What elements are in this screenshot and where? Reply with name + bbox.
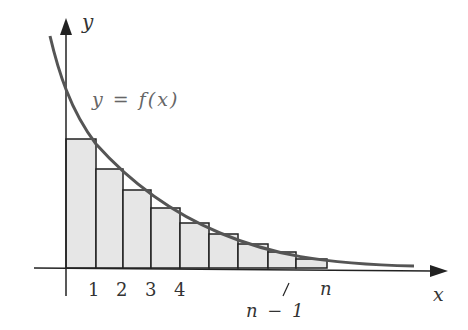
tick-n-minus-1: n − 1 xyxy=(246,300,306,321)
n-minus-1-pointer xyxy=(283,283,289,296)
tick-2: 2 xyxy=(116,279,127,300)
rect-4 xyxy=(151,208,180,268)
riemann-sum-diagram xyxy=(0,0,468,330)
y-axis-arrow-icon xyxy=(60,18,72,35)
rect-2 xyxy=(96,169,123,268)
tick-n: n xyxy=(320,278,332,299)
tick-1: 1 xyxy=(88,279,99,300)
rect-1 xyxy=(66,139,96,268)
tick-4: 4 xyxy=(174,279,185,300)
rect-3 xyxy=(123,190,151,268)
curve-label: y = f(x) xyxy=(92,88,179,110)
rect-5 xyxy=(180,223,209,268)
tick-3: 3 xyxy=(145,279,156,300)
rectangles xyxy=(66,139,327,268)
y-axis-label: y xyxy=(82,10,93,34)
x-axis-arrow-icon xyxy=(430,265,448,277)
x-axis-label: x xyxy=(433,283,444,305)
